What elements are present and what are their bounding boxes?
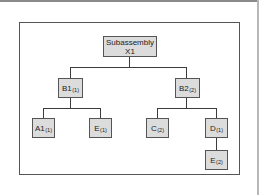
node-label: E: [94, 124, 99, 133]
outer-top-border: [0, 0, 259, 2]
connector-b1-children-bar: [43, 108, 101, 109]
connector-b1-stem: [70, 98, 71, 108]
connector-b2-children-bar: [157, 108, 217, 109]
connector-b2-stem: [186, 98, 187, 108]
node-label: Subassembly: [106, 38, 154, 47]
connector-e1-drop: [100, 108, 101, 118]
node-label: D: [210, 124, 216, 133]
node-label: C: [151, 124, 157, 133]
connector-d-stem: [216, 138, 217, 150]
node-e-under-b1: E(1): [89, 118, 112, 138]
node-e-under-d: E(2): [205, 150, 228, 170]
node-label: E: [210, 156, 215, 165]
connector-d-drop: [216, 108, 217, 118]
node-quantity: (2): [216, 158, 223, 167]
node-c: C(2): [146, 118, 169, 138]
connector-root-stem: [129, 57, 130, 67]
node-quantity: (2): [157, 126, 164, 135]
outer-right-border: [257, 0, 259, 195]
connector-level1-bar: [70, 67, 187, 68]
connector-c-drop: [157, 108, 158, 118]
node-quantity: (1): [216, 126, 223, 135]
node-a1: A1(1): [32, 118, 55, 138]
node-quantity: (2): [189, 86, 196, 95]
node-quantity: (1): [100, 126, 107, 135]
node-b2: B2(2): [175, 78, 200, 98]
connector-b2-drop: [186, 67, 187, 78]
connector-a1-drop: [43, 108, 44, 118]
node-quantity: (1): [45, 126, 52, 135]
node-label: B2: [179, 84, 189, 93]
node-label: X1: [125, 47, 135, 56]
node-b1: B1(1): [58, 78, 83, 98]
node-label: B1: [62, 84, 72, 93]
node-quantity: (1): [72, 86, 79, 95]
node-label: A1: [35, 124, 45, 133]
connector-b1-drop: [70, 67, 71, 78]
node-subassembly-x1: Subassembly X1: [103, 36, 157, 57]
node-d: D(1): [205, 118, 228, 138]
